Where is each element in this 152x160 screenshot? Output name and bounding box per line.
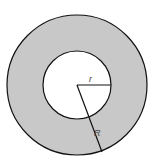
outer-radius-label: R xyxy=(94,128,101,138)
annulus-diagram: r R xyxy=(0,0,152,160)
